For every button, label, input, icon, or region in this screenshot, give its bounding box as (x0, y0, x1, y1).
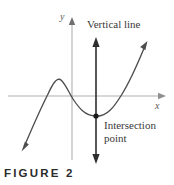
intersection-annotation-line-1: Intersection (104, 119, 156, 132)
intersection-point-marker (93, 113, 98, 118)
curve-start-arrowhead (22, 141, 29, 151)
figure-caption: FIGURE 2 (4, 167, 75, 179)
y-axis-label: y (60, 12, 64, 22)
x-axis-arrowhead (158, 93, 166, 100)
x-axis-label: x (155, 101, 159, 111)
vertical-line-group (92, 37, 99, 164)
y-axis-arrowhead (69, 17, 75, 25)
curve-end-arrowhead (140, 41, 147, 50)
intersection-point-annotation: Intersection point (104, 119, 156, 145)
figure-container: y x Vertical line Intersection point FIG… (0, 0, 174, 185)
vertical-line-top-arrowhead (92, 37, 99, 47)
vertical-line-annotation: Vertical line (87, 18, 140, 31)
vertical-line-bottom-arrowhead (92, 154, 99, 164)
intersection-annotation-line-2: point (104, 132, 156, 145)
